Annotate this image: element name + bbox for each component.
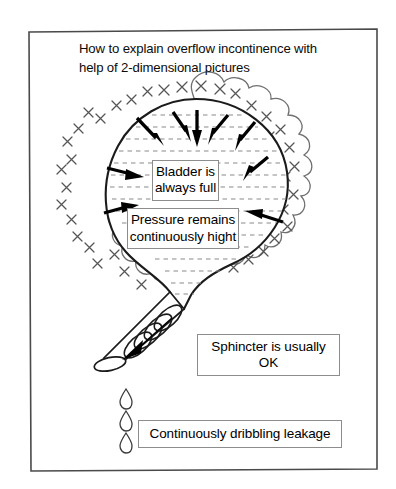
urethra-tube-icon	[93, 292, 186, 374]
label-bladder-always-full: Bladder is always full	[152, 160, 219, 201]
label-continuous-dribbling-leakage: Continuously dribbling leakage	[138, 420, 342, 448]
label-pressure-remains-high: Pressure remains continuously hight	[127, 208, 239, 249]
figure-title: How to explain overflow incontinence wit…	[79, 40, 359, 77]
urine-drops-icon	[120, 389, 132, 453]
label-sphincter-usually-ok: Sphincter is usually OK	[197, 334, 340, 376]
urethra-opening	[93, 354, 127, 373]
overflow-incontinence-figure: How to explain overflow incontinence wit…	[0, 0, 396, 489]
